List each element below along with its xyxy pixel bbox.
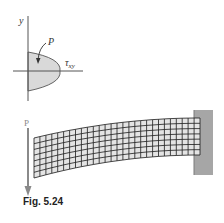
cantilever-beam: P <box>24 110 213 196</box>
load-label-beam: P <box>24 118 29 128</box>
shear-stress-diagram: y P τxy <box>13 15 83 101</box>
beam-mesh-grid <box>34 118 200 178</box>
y-axis-label: y <box>18 15 24 26</box>
load-arrow-down-icon <box>25 186 32 196</box>
load-label-top: P <box>47 36 54 47</box>
figure-canvas: y P τxy P <box>0 0 224 223</box>
figure-caption: Fig. 5.24 <box>23 196 63 207</box>
shear-stress-label: τxy <box>65 57 76 70</box>
